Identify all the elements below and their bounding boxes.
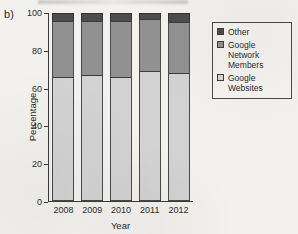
bar-slot: 2010: [107, 13, 136, 201]
y-tick: [44, 13, 48, 14]
y-axis-label: Percentage: [27, 93, 38, 142]
bar-segment-google-websites[interactable]: [52, 77, 74, 201]
y-tick-label: 80: [32, 46, 42, 55]
y-tick-label: 60: [32, 84, 42, 93]
x-tick-label: 2009: [82, 205, 102, 215]
bar-slot: 2009: [78, 13, 107, 201]
bar-segment-google-network-members[interactable]: [81, 21, 103, 76]
y-tick-label: 40: [32, 122, 42, 131]
bar-slot: 2012: [164, 13, 193, 201]
bar-segment-google-network-members[interactable]: [139, 19, 161, 72]
y-tick-label: 0: [37, 198, 42, 207]
y-tick-label: 100: [27, 9, 42, 18]
legend-swatch-icon: [217, 28, 224, 35]
stacked-bar[interactable]: [168, 13, 190, 201]
legend-item[interactable]: Google Network Members: [217, 40, 287, 70]
y-tick: [44, 89, 48, 90]
bar-segment-other[interactable]: [110, 13, 132, 21]
bar-segment-google-websites[interactable]: [139, 71, 161, 201]
stacked-bar[interactable]: [139, 13, 161, 201]
bar-segment-google-network-members[interactable]: [52, 21, 74, 77]
bar-slot: 2008: [49, 13, 78, 201]
bar-segment-google-websites[interactable]: [168, 73, 190, 201]
x-tick-label: 2011: [140, 205, 159, 215]
bar-segment-google-websites[interactable]: [81, 75, 103, 201]
legend-label: Google Network Members: [228, 40, 287, 70]
x-tick-label: 2010: [111, 205, 131, 215]
bar-segment-google-websites[interactable]: [110, 77, 132, 201]
legend-item[interactable]: Other: [217, 27, 287, 37]
scan-artifact: [38, 0, 188, 4]
bar-slot: 2011: [135, 13, 164, 201]
stacked-bar[interactable]: [81, 13, 103, 201]
stacked-bar[interactable]: [52, 13, 74, 201]
bar-segment-other[interactable]: [52, 13, 74, 21]
legend-item[interactable]: Google Websites: [217, 73, 287, 93]
bar-segment-other[interactable]: [81, 13, 103, 21]
bar-segment-google-network-members[interactable]: [168, 22, 190, 73]
plot-area: 20082009201020112012 020406080100: [48, 13, 193, 202]
y-tick: [44, 164, 48, 165]
stacked-bar[interactable]: [110, 13, 132, 201]
x-tick-label: 2008: [53, 205, 73, 215]
y-tick: [44, 51, 48, 52]
y-tick-label: 20: [32, 160, 42, 169]
legend-label: Other: [228, 27, 249, 37]
legend-label: Google Websites: [228, 73, 287, 93]
panel-label: b): [4, 8, 14, 20]
legend-swatch-icon: [217, 41, 224, 48]
y-tick: [44, 202, 48, 203]
y-tick: [44, 126, 48, 127]
bar-segment-google-network-members[interactable]: [110, 21, 132, 77]
chart-legend: OtherGoogle Network MembersGoogle Websit…: [212, 22, 292, 99]
legend-swatch-icon: [217, 74, 224, 81]
x-axis-line: [48, 201, 193, 202]
stacked-bars: 20082009201020112012: [49, 13, 193, 201]
bar-segment-other[interactable]: [168, 13, 190, 22]
x-axis-label: Year: [48, 220, 193, 231]
x-tick-label: 2012: [169, 205, 189, 215]
